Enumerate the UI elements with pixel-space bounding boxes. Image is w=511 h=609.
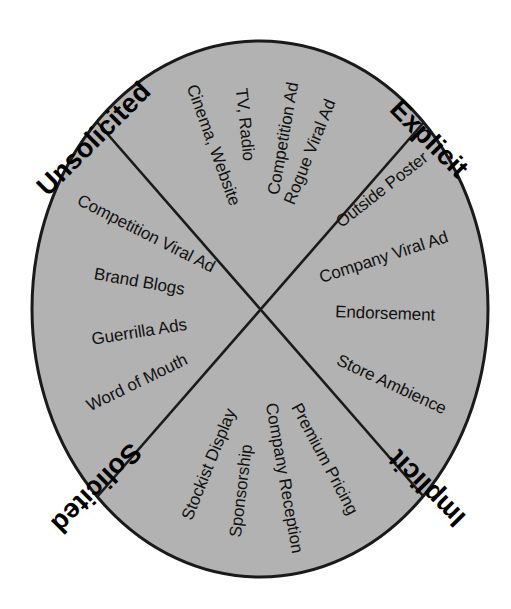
quadrant-item-label: Endorsement — [335, 302, 436, 324]
quadrant-wheel-diagram: Rogue Viral AdCompetition AdTV, RadioCin… — [0, 0, 511, 609]
diagram-canvas: Rogue Viral AdCompetition AdTV, RadioCin… — [0, 0, 511, 609]
